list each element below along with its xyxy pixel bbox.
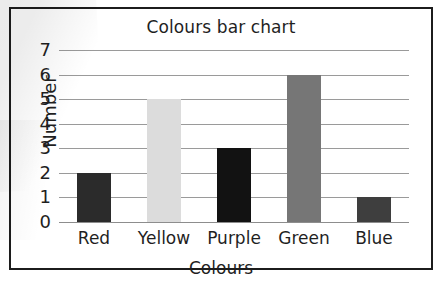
bars-layer: RedYellowPurpleGreenBlue: [59, 50, 409, 222]
bar: [217, 148, 251, 222]
bar-group: Yellow: [129, 50, 199, 222]
bar-group: Purple: [199, 50, 269, 222]
gridline: [59, 222, 409, 223]
y-axis-tick-label: 7: [40, 41, 51, 59]
bar-chart-screenshot: Colours bar chart Number 76543210 RedYel…: [0, 0, 444, 281]
plot-area: 76543210 RedYellowPurpleGreenBlue: [59, 50, 409, 222]
bar-group: Green: [269, 50, 339, 222]
x-axis-tick-label: Blue: [355, 228, 393, 248]
x-axis-tick-label: Red: [78, 228, 110, 248]
bar: [287, 75, 321, 222]
chart-frame: Colours bar chart Number 76543210 RedYel…: [9, 7, 433, 270]
bar: [357, 197, 391, 222]
x-axis-label: Colours: [11, 258, 431, 278]
y-axis-tick-label: 2: [40, 164, 51, 182]
x-axis-tick-label: Purple: [207, 228, 261, 248]
bar-group: Blue: [339, 50, 409, 222]
y-axis-tick-label: 1: [40, 188, 51, 206]
y-axis-label: Number: [39, 70, 60, 154]
chart-title: Colours bar chart: [11, 17, 431, 37]
x-axis-tick-label: Yellow: [138, 228, 190, 248]
x-axis-tick-label: Green: [278, 228, 329, 248]
bar: [147, 99, 181, 222]
y-axis-tick-label: 0: [40, 213, 51, 231]
bar-group: Red: [59, 50, 129, 222]
bar: [77, 173, 111, 222]
